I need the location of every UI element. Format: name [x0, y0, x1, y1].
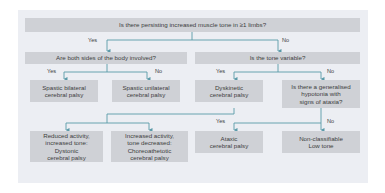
ataxic-line1: Ataxic	[221, 135, 238, 142]
dystonic-line3: Dystonic	[55, 147, 79, 154]
both-sides-question-text: Are both sides of the body involved?	[56, 54, 156, 61]
ataxic-line2: cerebral palsy	[210, 142, 249, 149]
hypotonia-no-label: No	[327, 118, 334, 124]
dystonic-line4: cerebral palsy	[47, 154, 86, 161]
ataxic-box: Ataxic cerebral palsy	[195, 131, 263, 153]
hypotonia-question-line1: Is there a generalised	[291, 83, 351, 90]
dystonic-box: Reduced activity, increased tone: Dyston…	[30, 131, 103, 162]
spastic-unilateral-line1: Spastic unilateral	[122, 84, 169, 91]
root-question-box: Is there persisting increased muscle ton…	[25, 18, 360, 32]
choreoathetotic-line2: tone decreased:	[127, 139, 171, 146]
hypotonia-question-line2: hypotonia with	[301, 90, 341, 97]
dyskinetic-line1: Dyskinetic	[215, 84, 243, 91]
spastic-bilateral-line1: Spastic bilateral	[42, 84, 86, 91]
choreoathetotic-line1: Increased activity,	[125, 132, 174, 139]
hypotonia-question-line3: signs of ataxia?	[300, 98, 343, 105]
both-sides-question-box: Are both sides of the body involved?	[25, 52, 187, 64]
choreoathetotic-line4: cerebral palsy	[130, 154, 169, 161]
tone-variable-yes-label: Yes	[216, 68, 225, 74]
spastic-unilateral-box: Spastic unilateral cerebral palsy	[112, 80, 180, 102]
root-question-text: Is there persisting increased muscle ton…	[119, 21, 266, 28]
both-sides-no-label: No	[155, 68, 162, 74]
non-classifiable-box: Non-classifiable Low tone	[282, 131, 360, 153]
non-classifiable-line2: Low tone	[308, 142, 333, 149]
tone-variable-question-text: Is the tone variable?	[250, 54, 306, 61]
tone-variable-no-label: No	[327, 68, 334, 74]
dyskinetic-box: Dyskinetic cerebral palsy	[195, 80, 263, 102]
spastic-bilateral-box: Spastic bilateral cerebral palsy	[30, 80, 98, 102]
both-sides-yes-label: Yes	[47, 68, 56, 74]
root-yes-label: Yes	[88, 37, 97, 43]
spastic-unilateral-line2: cerebral palsy	[127, 91, 166, 98]
hypotonia-question-box: Is there a generalised hypotonia with si…	[282, 80, 360, 108]
choreoathetotic-box: Increased activity, tone decreased: Chor…	[111, 131, 188, 162]
choreoathetotic-line3: Choreoathetotic	[128, 147, 172, 154]
dyskinetic-line2: cerebral palsy	[210, 91, 249, 98]
spastic-bilateral-line2: cerebral palsy	[45, 91, 84, 98]
dystonic-line1: Reduced activity,	[43, 132, 90, 139]
hypotonia-yes-label: Yes	[216, 118, 225, 124]
non-classifiable-line1: Non-classifiable	[299, 135, 343, 142]
tone-variable-question-box: Is the tone variable?	[195, 52, 360, 64]
dystonic-line2: increased tone:	[45, 139, 87, 146]
root-no-label: No	[282, 37, 289, 43]
